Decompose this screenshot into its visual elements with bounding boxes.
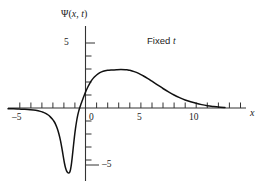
y-axis-title-close: ): [84, 8, 87, 19]
annotation-t-symbol: t: [173, 36, 176, 46]
wave-function-figure: Ψ(x, t) 5 –5 –5 0 5 10 x Fixed t: [0, 0, 269, 185]
x-axis-title: x: [250, 108, 254, 118]
y-axis-title-psi: Ψ(: [61, 8, 72, 19]
plot-canvas: [0, 0, 269, 185]
y-axis-title: Ψ(x, t): [61, 9, 87, 19]
y-tick-label-5: 5: [64, 38, 69, 48]
x-tick-label-minus-5: –5: [12, 113, 22, 123]
y-tick-label-minus-5: –5: [102, 160, 112, 170]
x-tick-label-10: 10: [189, 113, 199, 123]
annotation-fixed-t: Fixed t: [147, 36, 176, 47]
annotation-fixed-text: Fixed: [147, 35, 173, 46]
x-tick-label-5: 5: [137, 113, 142, 123]
x-tick-label-0: 0: [89, 113, 94, 123]
